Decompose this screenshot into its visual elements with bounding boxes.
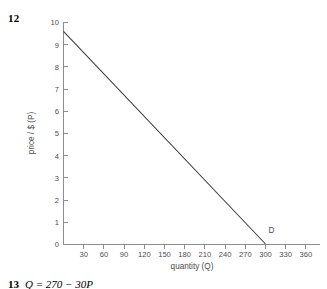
next-question-cutoff: 13Q = 270 − 30P: [8, 279, 327, 289]
figure-page: 12 0 1 2: [0, 0, 327, 289]
x-tick-label: 210: [199, 250, 212, 259]
y-tick-label: 5: [55, 129, 59, 138]
x-tick-label: 90: [120, 250, 128, 259]
x-tick-label: 30: [79, 250, 87, 259]
y-tick-label: 0: [55, 240, 59, 249]
x-tick-label: 240: [219, 250, 232, 259]
y-tick-label: 8: [55, 63, 59, 72]
x-tick-label: 150: [158, 250, 171, 259]
x-tick-labels: 30 60 90 120 150 180 210 240 270 300 330…: [79, 250, 312, 259]
y-tick-label: 3: [55, 174, 59, 183]
demand-curve-chart: 0 1 2 3 4 5 6 7 8 9 10: [0, 0, 327, 275]
y-tick-label: 7: [55, 85, 59, 94]
chart-svg: 0 1 2 3 4 5 6 7 8 9 10: [0, 0, 327, 275]
x-tick-label: 180: [178, 250, 191, 259]
y-tick-label: 1: [55, 218, 59, 227]
demand-curve-label: D: [269, 226, 275, 235]
y-tick-label: 10: [51, 18, 59, 27]
x-tick-label: 270: [239, 250, 252, 259]
x-tick-label: 60: [100, 250, 108, 259]
y-tick-labels: 0 1 2 3 4 5 6 7 8 9 10: [51, 18, 59, 249]
y-axis-title: price / $ (P): [27, 112, 36, 155]
next-question-text: Q = 270 − 30P: [25, 279, 93, 289]
x-axis-title: quantity (Q): [171, 262, 214, 271]
x-tick-marks: [84, 245, 306, 249]
y-tick-label: 2: [55, 196, 59, 205]
next-question-number: 13: [8, 279, 19, 289]
demand-curve-line: [64, 31, 266, 244]
x-tick-label: 300: [259, 250, 272, 259]
x-tick-label: 360: [300, 250, 313, 259]
y-tick-marks: [64, 23, 68, 223]
y-tick-label: 9: [55, 41, 59, 50]
x-tick-label: 330: [279, 250, 292, 259]
y-tick-label: 4: [55, 152, 59, 161]
x-tick-label: 120: [138, 250, 151, 259]
y-tick-label: 6: [55, 107, 59, 116]
